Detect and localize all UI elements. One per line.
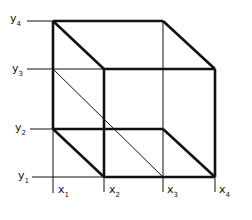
diag-bottom-left xyxy=(53,129,104,177)
inner-diagonal xyxy=(53,69,163,177)
thick-edges xyxy=(53,21,215,177)
label-x1: x1 xyxy=(58,183,69,199)
label-y1: y1 xyxy=(18,169,29,185)
label-x4: x4 xyxy=(219,183,231,199)
label-y3: y3 xyxy=(12,62,23,78)
diag-top-left xyxy=(53,21,104,69)
y-axis-labels: y4 y3 y2 y1 xyxy=(10,12,29,185)
x-axis-labels: x1 x2 x3 x4 xyxy=(58,183,231,199)
diag-bottom-right xyxy=(163,129,215,177)
label-y2: y2 xyxy=(15,121,26,137)
diag-top-right xyxy=(163,21,215,69)
thin-guide-lines xyxy=(27,21,215,193)
label-x2: x2 xyxy=(109,183,120,199)
label-x3: x3 xyxy=(167,183,178,199)
label-y4: y4 xyxy=(10,12,22,28)
cube-grid-diagram: y4 y3 y2 y1 x1 x2 x3 x4 xyxy=(0,0,252,220)
